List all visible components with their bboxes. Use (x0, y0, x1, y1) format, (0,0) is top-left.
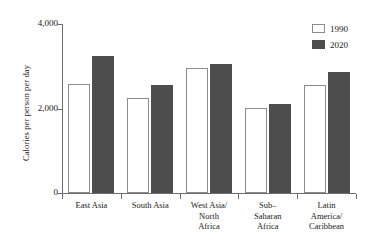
x-axis-group-separator (62, 194, 63, 199)
y-axis-tick-label: 4,000 (38, 18, 58, 28)
bar-chart: Calories per person per day 4,0002,0000 … (0, 0, 372, 250)
x-axis-group-separator (180, 194, 181, 199)
x-axis-group-separator (356, 194, 357, 199)
x-axis-label-line: Saharan (238, 211, 297, 222)
bar-1990 (186, 68, 208, 193)
y-axis-tick-label: 0 (54, 187, 59, 197)
x-axis-label-line: South Asia (121, 200, 180, 211)
bar-1990 (245, 108, 267, 193)
legend-swatch-icon-1990 (312, 24, 325, 33)
legend: 1990 2020 (312, 22, 348, 54)
bar-group (238, 24, 297, 193)
legend-swatch-icon-2020 (312, 40, 325, 49)
x-axis-label-line: America/ (297, 211, 356, 222)
x-axis-label-line: Africa (180, 221, 239, 232)
x-axis-label: East Asia (62, 200, 121, 211)
bar-group (62, 24, 121, 193)
bar-1990 (304, 85, 326, 193)
legend-item-2020: 2020 (312, 38, 348, 51)
y-axis-title: Calories per person per day (21, 33, 31, 193)
bar-group (121, 24, 180, 193)
bar-2020 (151, 85, 173, 193)
legend-label-2020: 2020 (330, 40, 348, 50)
x-axis-group-separator (121, 194, 122, 199)
bar-2020 (92, 56, 114, 193)
x-axis-label-line: West Asia/ (180, 200, 239, 211)
bar-2020 (269, 104, 291, 193)
x-axis-label-line: Sub– (238, 200, 297, 211)
x-axis-label: South Asia (121, 200, 180, 211)
x-axis-label: Sub–SaharanAfrica (238, 200, 297, 232)
x-axis-label: West Asia/NorthAfrica (180, 200, 239, 232)
x-axis-label-line: East Asia (62, 200, 121, 211)
x-axis-line (62, 193, 356, 194)
x-axis-label: LatinAmerica/Caribbean (297, 200, 356, 232)
x-axis-label-line: Latin (297, 200, 356, 211)
bar-1990 (68, 84, 90, 193)
legend-item-1990: 1990 (312, 22, 348, 35)
x-axis-group-separator (297, 194, 298, 199)
bar-2020 (328, 72, 350, 193)
legend-label-1990: 1990 (330, 24, 348, 34)
y-axis-tick-label: 2,000 (38, 103, 58, 113)
bar-1990 (127, 98, 149, 193)
x-axis-label-line: North (180, 211, 239, 222)
bar-2020 (210, 64, 232, 193)
x-axis-label-line: Caribbean (297, 221, 356, 232)
x-axis-label-line: Africa (238, 221, 297, 232)
x-axis-group-separator (238, 194, 239, 199)
bar-group (180, 24, 239, 193)
